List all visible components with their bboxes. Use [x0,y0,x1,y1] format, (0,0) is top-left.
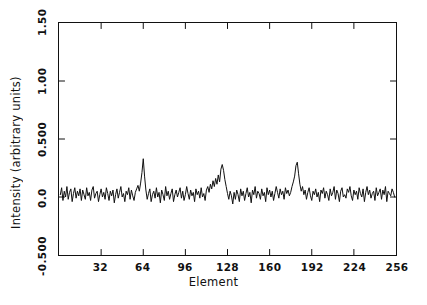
y-tick-label: 0.500 [36,119,48,159]
x-tick-label: 160 [258,261,281,273]
y-tick-label: 1.50 [36,2,48,42]
series-line [60,159,394,204]
x-tick-label: 192 [301,261,324,273]
x-tick-label: 64 [135,261,150,273]
data-trace [59,23,396,255]
y-tick-label: -0.500 [36,236,48,276]
x-tick-label: 256 [385,261,408,273]
y-tick-label: 0.0 [36,178,48,218]
x-tick-label: 96 [177,261,192,273]
x-tick-label: 128 [216,261,239,273]
plot-area [58,22,397,256]
chart-figure: Intensity (arbitrary units) -0.5000.00.5… [0,0,427,305]
x-tick-label: 32 [93,261,108,273]
y-tick-label: 1.00 [36,61,48,101]
x-tick-label: 224 [343,261,366,273]
y-axis-title: Intensity (arbitrary units) [6,0,26,305]
x-axis-title: Element [0,275,427,289]
axis-ticks [59,23,396,255]
